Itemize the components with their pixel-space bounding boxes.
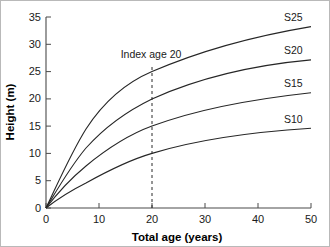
index-age-annotation-label: Index age 20 — [121, 48, 182, 60]
y-tick-label-25: 25 — [29, 65, 41, 77]
y-tick-label-35: 35 — [29, 11, 41, 23]
y-axis-ticks — [46, 17, 51, 208]
x-tick-label-40: 40 — [252, 213, 264, 225]
series-label-s10: S10 — [284, 113, 303, 125]
y-tick-label-30: 30 — [29, 38, 41, 50]
y-tick-label-10: 10 — [29, 147, 41, 159]
y-axis-title: Height (m) — [4, 83, 16, 140]
chart-figure: 0 5 10 15 20 25 30 35 0 10 20 30 40 50 T… — [0, 0, 330, 247]
x-tick-label-50: 50 — [305, 213, 317, 225]
curve-s15 — [46, 93, 311, 208]
y-tick-label-5: 5 — [35, 174, 41, 186]
series-label-s25: S25 — [284, 11, 303, 23]
y-tick-label-20: 20 — [29, 92, 41, 104]
height-growth-curves-chart: 0 5 10 15 20 25 30 35 0 10 20 30 40 50 T… — [1, 1, 330, 247]
y-tick-label-0: 0 — [35, 202, 41, 214]
curve-s20 — [46, 60, 311, 208]
curve-s10 — [46, 128, 311, 208]
x-tick-label-30: 30 — [199, 213, 211, 225]
x-axis-ticks — [46, 203, 311, 208]
y-tick-label-15: 15 — [29, 120, 41, 132]
x-axis-title: Total age (years) — [132, 231, 223, 243]
x-tick-label-10: 10 — [93, 213, 105, 225]
x-tick-label-0: 0 — [43, 213, 49, 225]
series-label-s15: S15 — [284, 77, 303, 89]
x-tick-label-20: 20 — [146, 213, 158, 225]
series-label-s20: S20 — [284, 44, 303, 56]
